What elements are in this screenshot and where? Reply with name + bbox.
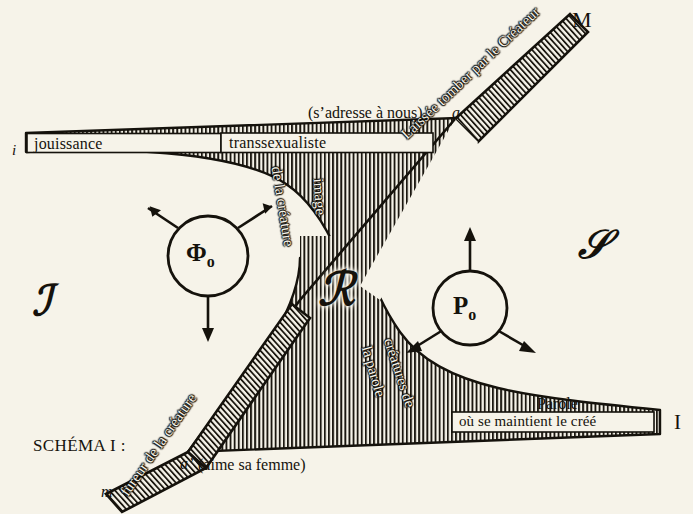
node-label-phi-o: Φo (186, 239, 215, 271)
vertex-label-m: m (101, 483, 113, 501)
band-text-ou-se-maintient-le-cree: où se maintient le créé (459, 413, 596, 430)
symbol-imaginary: ℐ (32, 276, 52, 325)
node-p-symbol: P (453, 292, 468, 319)
vertex-label-a-prime: a’ (180, 455, 193, 473)
node-p-o[interactable] (406, 227, 536, 353)
band-text-transsexualiste: transsexualiste (229, 134, 326, 152)
vertex-label-M: M (572, 7, 592, 33)
node-phi-subscript: o (207, 253, 215, 270)
symbol-symbolic: 𝒮 (578, 220, 609, 268)
annotation-parole: Parole (537, 395, 578, 413)
node-phi-o[interactable] (147, 203, 273, 342)
node-label-p-o: Po (453, 292, 476, 324)
figure-caption: SCHÉMA I : (33, 436, 126, 456)
symbol-real: ℛ (318, 262, 355, 316)
vertex-label-i: i (12, 142, 16, 159)
annotation-sadresse-a-nous: (s’adresse à nous) (308, 104, 423, 122)
node-p-subscript: o (468, 306, 476, 323)
annotation-aime-sa-femme: (aime sa femme) (198, 456, 306, 474)
band-text-jouissance: jouissance (34, 135, 103, 153)
vertex-label-a: a (452, 104, 460, 122)
node-phi-symbol: Φ (186, 239, 207, 266)
vertex-label-I: I (674, 410, 681, 435)
annotation-image: image (310, 178, 330, 216)
